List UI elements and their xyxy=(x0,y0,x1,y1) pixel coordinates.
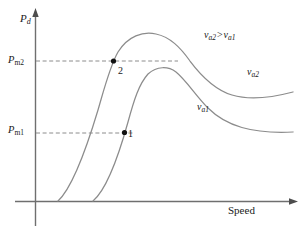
y-tick-label-pm2: Pm2 xyxy=(8,55,24,67)
marker-point-2 xyxy=(111,58,116,63)
marker-point-1 xyxy=(122,130,127,135)
inequality-left-subscript: a2 xyxy=(208,33,216,42)
x-axis-arrow-icon xyxy=(289,198,298,204)
y-axis-label-subscript: d xyxy=(27,17,31,26)
y-tick-pm1-subscript: m1 xyxy=(14,128,24,137)
guide-lines-group xyxy=(36,61,178,133)
greater-than-operator: > xyxy=(216,29,224,40)
y-tick-pm2-subscript: m2 xyxy=(14,58,24,67)
figure-container: Pd Pm2 Pm1 va2 va1 va2>va1 Speed 2 1 xyxy=(0,0,307,243)
y-axis-label: Pd xyxy=(20,13,31,26)
curve-label-va1-subscript: a1 xyxy=(201,105,209,114)
inequality-right-subscript: a1 xyxy=(228,33,236,42)
y-axis-label-base: P xyxy=(20,12,27,24)
curve-label-va1: va1 xyxy=(197,102,209,114)
y-axis-arrow-icon xyxy=(32,8,38,17)
plot-canvas xyxy=(0,0,307,243)
y-tick-label-pm1: Pm1 xyxy=(8,125,24,137)
curve-label-va2: va2 xyxy=(247,67,259,79)
curve-va2 xyxy=(58,33,293,201)
x-axis-label: Speed xyxy=(228,205,255,216)
curve-label-va2-subscript: a2 xyxy=(251,70,259,79)
inequality-annotation: va2>va1 xyxy=(204,30,236,42)
marker-label-1: 1 xyxy=(128,129,133,139)
marker-label-2: 2 xyxy=(118,66,123,76)
axis-group xyxy=(15,8,298,226)
